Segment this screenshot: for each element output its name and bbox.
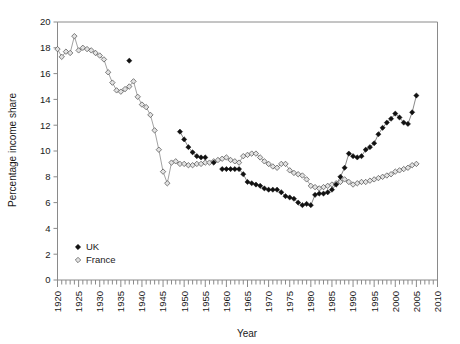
france-data-point bbox=[148, 112, 153, 117]
x-tick-label: 2000 bbox=[390, 291, 401, 312]
x-tick-label: 1990 bbox=[347, 291, 358, 312]
uk-data-point bbox=[363, 147, 368, 152]
y-tick-label: 8 bbox=[45, 171, 50, 182]
axes-group bbox=[58, 22, 438, 280]
france-polyline bbox=[58, 36, 417, 188]
y-tick-label: 6 bbox=[45, 197, 50, 208]
x-tick-label: 1945 bbox=[157, 291, 168, 312]
uk-data-point bbox=[342, 165, 347, 170]
france-series-line bbox=[58, 36, 417, 188]
x-axis-title: Year bbox=[237, 328, 258, 339]
y-tick-label: 10 bbox=[40, 145, 51, 156]
uk-data-point bbox=[376, 132, 381, 137]
x-tick-label: 1995 bbox=[369, 291, 380, 312]
france-data-point bbox=[72, 33, 77, 38]
x-tick-label: 1935 bbox=[115, 291, 126, 312]
x-tick-label: 1960 bbox=[221, 291, 232, 312]
x-tick-group: 1920192519301935194019451950195519601965… bbox=[52, 280, 443, 312]
x-tick-label: 1985 bbox=[326, 291, 337, 312]
uk-data-point bbox=[177, 129, 182, 134]
uk-series-markers bbox=[127, 58, 419, 208]
x-tick-label: 1930 bbox=[94, 291, 105, 312]
x-tick-label: 1955 bbox=[200, 291, 211, 312]
y-tick-label: 20 bbox=[40, 16, 51, 27]
y-tick-group: 02468101214161820 bbox=[40, 16, 58, 285]
y-tick-label: 12 bbox=[40, 120, 51, 131]
france-data-point bbox=[135, 94, 140, 99]
y-tick-label: 14 bbox=[40, 94, 51, 105]
y-tick-label: 16 bbox=[40, 68, 51, 79]
x-tick-label: 1980 bbox=[305, 291, 316, 312]
legend-label: UK bbox=[86, 241, 100, 252]
y-tick-label: 2 bbox=[45, 249, 50, 260]
legend-marker-uk bbox=[75, 244, 80, 249]
y-tick-label: 18 bbox=[40, 42, 51, 53]
uk-data-point bbox=[203, 155, 208, 160]
uk-data-point bbox=[346, 151, 351, 156]
france-data-point bbox=[55, 46, 60, 51]
uk-data-point bbox=[274, 187, 279, 192]
x-tick-label: 1975 bbox=[284, 291, 295, 312]
france-series-markers bbox=[55, 33, 419, 191]
legend-marker-france bbox=[75, 257, 80, 262]
uk-series-line bbox=[180, 96, 416, 206]
income-share-line-chart: 02468101214161820 1920192519301935194019… bbox=[0, 0, 460, 344]
france-data-point bbox=[283, 161, 288, 166]
france-data-point bbox=[165, 181, 170, 186]
x-tick-label: 2010 bbox=[432, 291, 443, 312]
x-tick-label: 2005 bbox=[411, 291, 422, 312]
legend-label: France bbox=[86, 254, 116, 265]
x-tick-label: 1940 bbox=[136, 291, 147, 312]
france-data-point bbox=[110, 80, 115, 85]
france-data-point bbox=[105, 70, 110, 75]
uk-data-point bbox=[127, 58, 132, 63]
uk-data-point bbox=[410, 110, 415, 115]
x-tick-label: 1920 bbox=[52, 291, 63, 312]
y-tick-label: 0 bbox=[45, 274, 50, 285]
y-axis-title: Percentage income share bbox=[7, 93, 18, 207]
uk-data-point bbox=[182, 137, 187, 142]
x-tick-label: 1970 bbox=[263, 291, 274, 312]
france-data-point bbox=[152, 128, 157, 133]
x-tick-label: 1925 bbox=[73, 291, 84, 312]
chart-legend: UKFrance bbox=[75, 241, 115, 265]
france-data-point bbox=[156, 147, 161, 152]
france-data-point bbox=[160, 169, 165, 174]
x-tick-label: 1950 bbox=[179, 291, 190, 312]
x-tick-label: 1965 bbox=[242, 291, 253, 312]
chart-figure: 02468101214161820 1920192519301935194019… bbox=[0, 0, 460, 344]
y-tick-label: 4 bbox=[45, 223, 50, 234]
uk-data-point bbox=[414, 93, 419, 98]
